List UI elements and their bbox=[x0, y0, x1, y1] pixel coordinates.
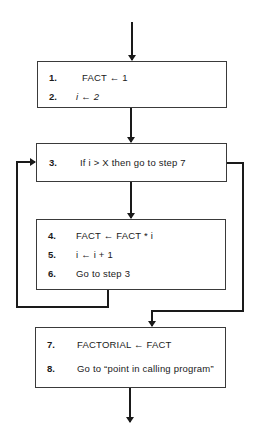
step-number: 7. bbox=[47, 339, 55, 350]
step-text: FACT ← 1 bbox=[82, 72, 128, 83]
step-text: Go to “point in calling program” bbox=[77, 363, 214, 374]
step-number: 2. bbox=[49, 91, 57, 102]
step-text: i ← 2 bbox=[76, 91, 99, 102]
step-text: If i > X then go to step 7 bbox=[80, 157, 186, 168]
step-number: 8. bbox=[47, 363, 55, 374]
step-number: 5. bbox=[48, 249, 56, 260]
flowchart-box-test: 3. If i > X then go to step 7 bbox=[36, 143, 227, 182]
flowchart-box-loop-body: 4. FACT ← FACT * i 5. i ← i + 1 6. Go to… bbox=[36, 219, 226, 290]
step-number: 6. bbox=[48, 268, 56, 279]
flowchart-box-init: 1. FACT ← 1 2. i ← 2 bbox=[37, 61, 227, 108]
step-text: FACTORIAL ← FACT bbox=[77, 339, 172, 350]
step-number: 3. bbox=[49, 157, 57, 168]
step-text: i ← i + 1 bbox=[76, 249, 113, 260]
step-text: FACT ← FACT * i bbox=[76, 230, 153, 241]
flowchart-box-finish: 7. FACTORIAL ← FACT 8. Go to “point in c… bbox=[35, 327, 226, 388]
step-number: 1. bbox=[49, 72, 57, 83]
step-text: Go to step 3 bbox=[76, 268, 130, 279]
step-number: 4. bbox=[48, 230, 56, 241]
